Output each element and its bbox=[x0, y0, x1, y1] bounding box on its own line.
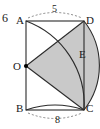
vertex-label-b: B bbox=[16, 103, 23, 114]
shaded-region bbox=[26, 21, 99, 110]
vertex-label-d: D bbox=[86, 15, 94, 26]
vertex-label-c: C bbox=[86, 103, 93, 114]
vertex-label-e: E bbox=[79, 49, 86, 60]
measure-label-bottom: 8 bbox=[55, 115, 60, 125]
problem-number-label: 6 bbox=[2, 12, 8, 24]
measure-label-top: 5 bbox=[52, 4, 57, 14]
point-marker-o bbox=[24, 64, 28, 68]
vertex-label-o: O bbox=[13, 61, 21, 72]
vertex-label-a: A bbox=[16, 15, 24, 26]
arc-b-to-c bbox=[26, 105, 84, 110]
geometry-figure: 6 A B C D E O 5 8 bbox=[0, 0, 100, 129]
